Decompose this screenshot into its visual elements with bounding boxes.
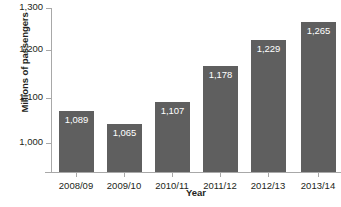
x-tick (318, 172, 319, 177)
x-tick (268, 172, 269, 177)
bar-value-label: 1,178 (203, 69, 238, 80)
y-tick: 1,300 (46, 8, 52, 9)
bar: 1,065 (107, 124, 142, 172)
y-tick: 1,000 (46, 143, 52, 144)
bar-value-label: 1,089 (59, 114, 94, 125)
x-tick (76, 172, 77, 177)
bar-value-label: 1,107 (155, 105, 190, 116)
bar-value-label: 1,229 (251, 43, 286, 54)
bar-chart: Millions of passengers 1,300 1,200 1,100… (0, 0, 341, 207)
plot-area: 1,300 1,200 1,100 1,000 1,089 1,065 1,10… (51, 4, 341, 173)
y-tick: 1,100 (46, 98, 52, 99)
bar: 1,178 (203, 66, 238, 172)
y-tick-label: 1,200 (19, 43, 43, 54)
x-tick (172, 172, 173, 177)
x-tick (124, 172, 125, 177)
caption-fragment (4, 198, 204, 207)
x-axis-line (45, 172, 341, 173)
y-tick-label: 1,000 (19, 136, 43, 147)
x-axis-title: Year (51, 187, 341, 198)
y-tick-label: 1,300 (19, 1, 43, 12)
y-axis-line (51, 8, 52, 173)
y-axis-title: Millions of passengers (19, 0, 30, 133)
bar-value-label: 1,265 (301, 25, 336, 36)
y-tick: 1,200 (46, 50, 52, 51)
y-tick-label: 1,100 (19, 91, 43, 102)
bar: 1,089 (59, 111, 94, 172)
x-tick (220, 172, 221, 177)
bar-value-label: 1,065 (107, 127, 142, 138)
bar: 1,229 (251, 40, 286, 172)
bar: 1,107 (155, 102, 190, 172)
bar: 1,265 (301, 22, 336, 172)
